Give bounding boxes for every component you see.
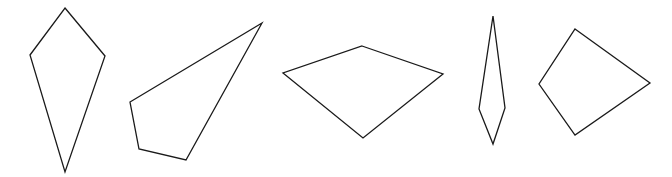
shape-tilted-square-quadrilateral [539,29,650,135]
shape-narrow-sliver-quadrilateral [479,16,505,144]
shape-elongated-dart-quadrilateral [130,23,262,160]
shapes-svg [0,0,672,177]
shape-wide-flat-quadrilateral [283,46,443,138]
shape-kite-quadrilateral [30,8,105,172]
shape-canvas [0,0,672,177]
